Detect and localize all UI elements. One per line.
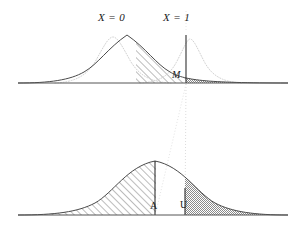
label-a: A	[150, 200, 157, 211]
upper-panel	[18, 35, 288, 83]
figure-canvas: X = 0 X = 1 M A U	[0, 0, 301, 234]
label-x0: X = 0	[98, 11, 125, 23]
distribution-figure-svg	[0, 0, 301, 234]
label-m: M	[172, 69, 180, 80]
connector-M-to-A	[156, 84, 186, 212]
label-x1: X = 1	[163, 11, 190, 23]
panel-connectors	[156, 10, 186, 212]
label-u: U	[180, 199, 187, 210]
hatched-region-left-of-M	[18, 35, 288, 83]
